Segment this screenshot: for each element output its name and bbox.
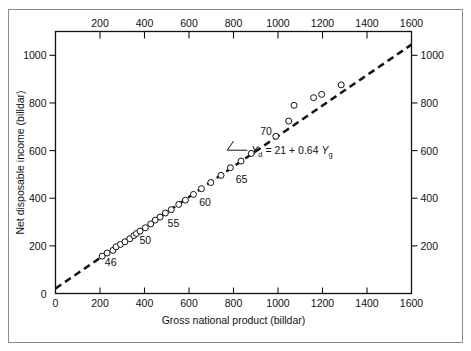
x-tick-label-bottom: 0 <box>53 297 59 309</box>
point-annotation: 46 <box>105 256 117 268</box>
data-point <box>162 210 168 216</box>
data-points-group <box>99 82 344 259</box>
y-tick-label-left: 600 <box>29 145 47 157</box>
data-point <box>238 158 244 164</box>
data-point <box>157 214 163 220</box>
y-tick-label-right: 1000 <box>421 49 445 61</box>
data-point <box>227 165 233 171</box>
point-annotation: 60 <box>199 196 211 208</box>
figure-container: 0200400600800100012001400160020040060080… <box>0 0 471 351</box>
x-tick-label-bottom: 200 <box>91 297 109 309</box>
x-tick-label-bottom: 1400 <box>355 297 379 309</box>
data-point <box>311 95 317 101</box>
x-tick-label-top: 800 <box>225 17 243 29</box>
y-tick-label-right: 800 <box>421 97 439 109</box>
data-point <box>273 133 279 139</box>
scatter-chart: 0200400600800100012001400160020040060080… <box>0 0 471 351</box>
x-tick-label-top: 600 <box>180 17 198 29</box>
data-point <box>338 82 344 88</box>
x-tick-label-bottom: 1600 <box>400 297 424 309</box>
point-annotation: 50 <box>140 234 152 246</box>
data-point <box>291 102 297 108</box>
x-tick-label-bottom: 600 <box>180 297 198 309</box>
x-tick-label-top: 1400 <box>355 17 379 29</box>
x-tick-label-bottom: 1000 <box>266 297 290 309</box>
x-tick-label-top: 200 <box>91 17 109 29</box>
data-point <box>142 225 148 231</box>
data-point <box>319 91 325 97</box>
data-point <box>208 180 214 186</box>
y-tick-label-right: 400 <box>421 192 439 204</box>
regression-equation: Yd = 21 + 0.64 Yg <box>251 144 332 159</box>
y-tick-label-left: 800 <box>29 97 47 109</box>
x-tick-label-bottom: 800 <box>225 297 243 309</box>
y-tick-label-right: 600 <box>421 145 439 157</box>
x-tick-label-bottom: 400 <box>136 297 154 309</box>
data-point <box>198 186 204 192</box>
x-axis-title: Gross national product (billdar) <box>162 314 306 326</box>
x-tick-label-bottom: 1200 <box>311 297 335 309</box>
y-tick-label-left: 0 <box>41 288 47 300</box>
x-tick-label-top: 1000 <box>266 17 290 29</box>
data-point <box>190 191 196 197</box>
y-tick-label-right: 200 <box>421 240 439 252</box>
equation-leader-line <box>227 141 247 150</box>
data-point <box>176 201 182 207</box>
y-tick-label-left: 400 <box>29 192 47 204</box>
x-tick-label-top: 1600 <box>400 17 424 29</box>
point-annotation: 55 <box>168 217 180 229</box>
data-point <box>168 207 174 213</box>
point-annotation: 70 <box>260 125 272 137</box>
data-point <box>286 118 292 124</box>
y-axis-title: Net disposable income (billdar) <box>14 90 26 234</box>
data-point <box>182 197 188 203</box>
y-tick-label-left: 200 <box>29 240 47 252</box>
data-point <box>218 172 224 178</box>
point-annotation: 65 <box>236 173 248 185</box>
x-tick-label-top: 400 <box>136 17 154 29</box>
x-tick-label-top: 1200 <box>311 17 335 29</box>
y-tick-label-left: 1000 <box>23 49 47 61</box>
